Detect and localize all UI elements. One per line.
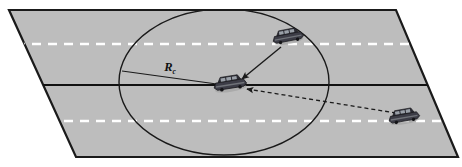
- diagram-canvas: Rc: [0, 0, 462, 167]
- figure-container: Rc: [0, 0, 462, 167]
- range-label-symbol: R: [163, 60, 172, 74]
